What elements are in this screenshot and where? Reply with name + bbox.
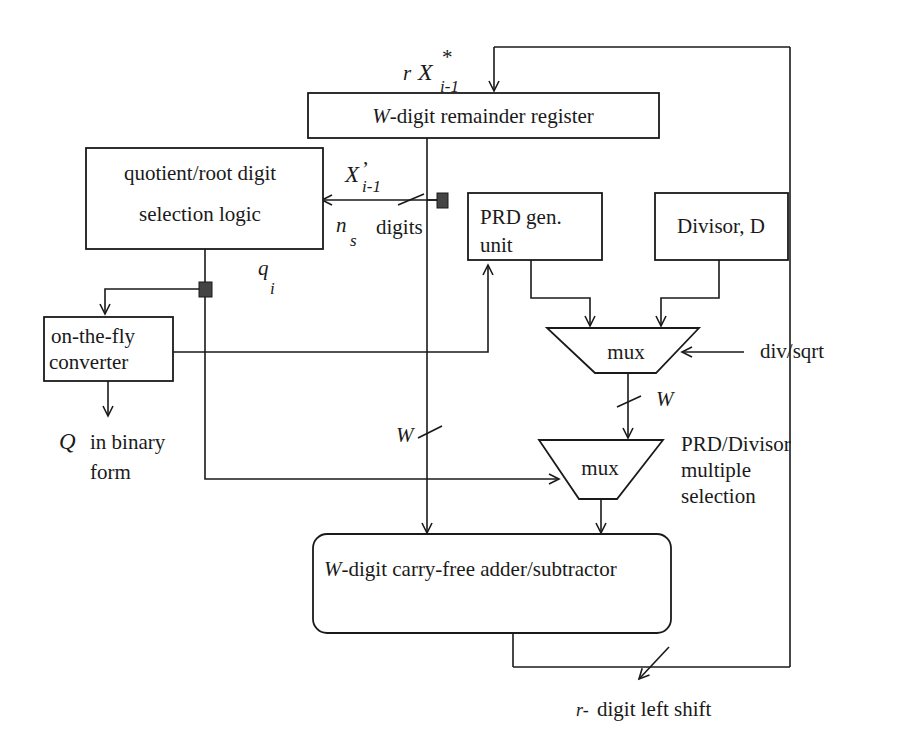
shift-arrow-icon <box>639 647 669 679</box>
svg-text:unit: unit <box>480 233 513 257</box>
svg-text:multiple: multiple <box>681 458 751 482</box>
qi-junction-node-icon <box>199 282 212 297</box>
remainder-register-block: W-digit remainder register <box>308 93 659 138</box>
svg-text:quotient/root digit: quotient/root digit <box>124 161 276 185</box>
mux-bottom-block: mux <box>539 440 663 499</box>
converter-to-prd <box>173 265 488 352</box>
svg-text:X: X <box>344 162 360 187</box>
svg-text:form: form <box>90 460 131 484</box>
divisor-block: Divisor, D <box>655 193 788 260</box>
svg-text:in binary: in binary <box>90 430 166 454</box>
prd-gen-block: PRD gen. unit <box>468 193 602 260</box>
bus-width-tick-icon <box>418 426 442 438</box>
ns-digits-label: n s digits <box>336 213 423 250</box>
remainder-register-label: -digit remainder register <box>390 104 594 128</box>
svg-text:selection: selection <box>681 484 756 508</box>
svg-text:r-: r- <box>576 700 589 720</box>
mux-bottom-description: PRD/Divisor multiple selection <box>681 432 791 508</box>
svg-text:Divisor, D: Divisor, D <box>677 214 765 238</box>
svg-text:W-digit carry-free adder/subtr: W-digit carry-free adder/subtractor <box>324 557 617 581</box>
svg-text:W-digit remainder register: W-digit remainder register <box>372 104 594 128</box>
shift-label: r- digit left shift <box>576 697 711 721</box>
w-width-mux-label: W <box>656 387 676 411</box>
prd-to-mux <box>531 260 590 326</box>
div-sqrt-label: div/sqrt <box>760 339 824 363</box>
adder-subtractor-block: W-digit carry-free adder/subtractor <box>313 534 671 633</box>
divider-sqrt-block-diagram: r X * i-1 W-digit remainder register W X… <box>0 0 910 756</box>
mux-top-block: mux <box>547 328 699 373</box>
rx-input-label: r X * i-1 <box>403 45 459 96</box>
adder-label: -digit carry-free adder/subtractor <box>342 557 617 581</box>
svg-text:i-1: i-1 <box>362 177 381 196</box>
svg-text:r: r <box>403 61 412 85</box>
svg-text:digit left shift: digit left shift <box>597 697 711 721</box>
svg-text:PRD gen.: PRD gen. <box>480 205 562 229</box>
svg-text:n: n <box>336 213 347 237</box>
otf-converter-block: on-the-fly converter <box>44 317 173 381</box>
w-width-tick-icon <box>617 396 641 407</box>
svg-text:PRD/Divisor: PRD/Divisor <box>681 432 791 456</box>
svg-text:mux: mux <box>607 340 645 364</box>
svg-text:selection logic: selection logic <box>139 202 261 226</box>
w-width-reg-label: W <box>396 423 416 447</box>
svg-text:*: * <box>442 45 453 69</box>
q-output-label: Q in binary form <box>59 429 166 484</box>
svg-text:q: q <box>258 256 269 280</box>
svg-text:converter: converter <box>49 350 128 374</box>
divisor-to-mux <box>661 260 719 326</box>
qi-label: q i <box>258 256 275 298</box>
qi-to-converter <box>105 289 199 314</box>
svg-text:s: s <box>350 231 357 250</box>
x-prime-label: X ’ i-1 <box>344 157 381 196</box>
qds-logic-block: quotient/root digit selection logic <box>86 148 323 249</box>
svg-text:Q: Q <box>59 429 76 454</box>
svg-text:digits: digits <box>376 215 423 239</box>
svg-text:on-the-fly: on-the-fly <box>51 324 135 348</box>
svg-text:X: X <box>417 59 434 85</box>
junction-node-icon <box>437 193 448 208</box>
svg-text:i: i <box>270 279 275 298</box>
svg-text:mux: mux <box>581 456 619 480</box>
qi-to-mux-select <box>205 297 392 479</box>
